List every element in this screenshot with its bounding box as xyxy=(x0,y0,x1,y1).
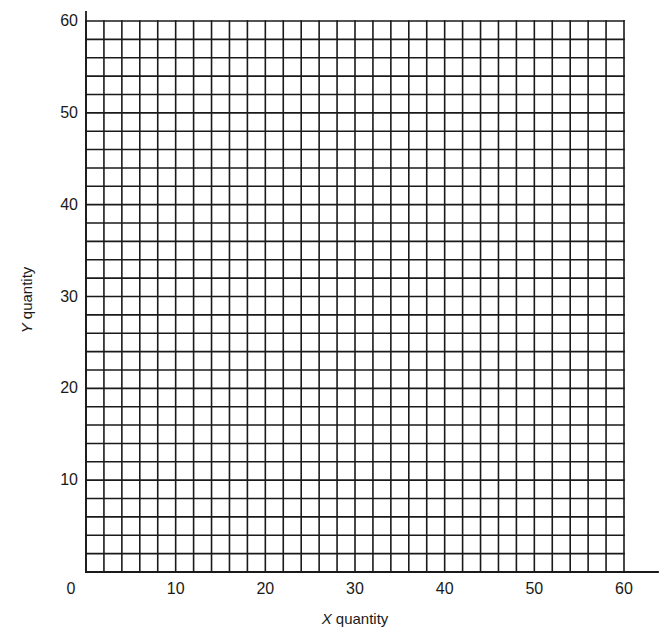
y-tick-label: 30 xyxy=(38,289,78,305)
y-axis-title-text: quantity xyxy=(18,267,35,324)
y-tick-label: 20 xyxy=(38,380,78,396)
y-axis-variable: Y xyxy=(18,323,35,333)
x-axis-title-text: quantity xyxy=(332,610,389,627)
x-tick-label: 10 xyxy=(156,581,196,597)
blank-graph-chart: 102030405060 0102030405060 Y quantity X … xyxy=(0,0,672,644)
x-tick-label: 50 xyxy=(514,581,554,597)
y-tick-label: 40 xyxy=(38,197,78,213)
x-tick-label: 60 xyxy=(604,581,644,597)
x-axis-title: X quantity xyxy=(322,610,389,627)
x-tick-label: 0 xyxy=(51,581,91,597)
x-axis-variable: X xyxy=(322,610,332,627)
x-tick-label: 40 xyxy=(425,581,465,597)
grid-lines xyxy=(0,0,672,644)
y-tick-label: 60 xyxy=(38,13,78,29)
x-tick-label: 30 xyxy=(335,581,375,597)
y-tick-label: 50 xyxy=(38,105,78,121)
y-tick-label: 10 xyxy=(38,472,78,488)
y-axis-title: Y quantity xyxy=(18,267,35,334)
x-tick-label: 20 xyxy=(245,581,285,597)
